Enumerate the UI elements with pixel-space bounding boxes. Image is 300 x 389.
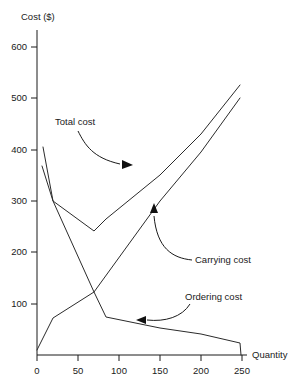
x-tick-label-150: 150 — [152, 365, 168, 376]
annotation-carrying-cost-arrowhead — [150, 203, 158, 213]
annotation-total-cost: Total cost — [55, 116, 133, 169]
annotation-total-cost-arrowhead — [122, 160, 133, 169]
annotation-carrying-cost: Carrying cost — [150, 203, 251, 265]
x-tick-labels: 0 50 100 150 200 250 — [34, 365, 250, 376]
axis-group — [37, 30, 247, 355]
y-tick-label-600: 600 — [11, 41, 27, 52]
annotation-ordering-cost-arrowhead — [136, 316, 146, 324]
x-tick-label-0: 0 — [34, 365, 39, 376]
series-total-cost — [43, 85, 240, 231]
annotation-ordering-cost-label: Ordering cost — [185, 291, 242, 302]
y-tick-label-300: 300 — [11, 195, 27, 206]
x-tick-label-200: 200 — [193, 365, 209, 376]
inventory-cost-chart: 600 500 400 300 200 100 0 50 100 150 200… — [0, 0, 300, 389]
annotation-total-cost-leader — [78, 131, 120, 164]
y-tick-label-100: 100 — [11, 298, 27, 309]
y-tick-label-200: 200 — [11, 246, 27, 257]
x-tick-marks — [37, 355, 242, 361]
x-tick-label-250: 250 — [234, 365, 250, 376]
y-tick-labels: 600 500 400 300 200 100 — [11, 41, 27, 309]
y-tick-label-400: 400 — [11, 144, 27, 155]
annotation-total-cost-label: Total cost — [55, 116, 95, 127]
x-axis-title: Quantity — [252, 349, 288, 360]
y-tick-marks — [31, 47, 37, 304]
y-tick-label-500: 500 — [11, 92, 27, 103]
y-axis-title: Cost ($) — [21, 11, 55, 22]
series-carrying-cost — [37, 98, 240, 350]
annotation-carrying-cost-label: Carrying cost — [195, 254, 251, 265]
chart-canvas: 600 500 400 300 200 100 0 50 100 150 200… — [0, 0, 300, 389]
annotation-ordering-cost: Ordering cost — [136, 291, 242, 324]
x-tick-label-100: 100 — [111, 365, 127, 376]
x-tick-label-50: 50 — [73, 365, 84, 376]
annotation-ordering-cost-leader — [147, 304, 190, 320]
annotation-carrying-cost-leader — [154, 216, 192, 260]
